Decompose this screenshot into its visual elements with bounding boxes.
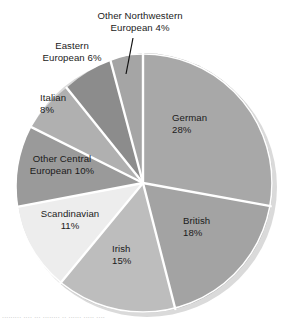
pie-label-other-central-european-value: European 10% [10, 165, 114, 177]
pie-label-eastern-european-value: European 6% [22, 52, 122, 64]
pie-label-other-central-european: Other Central European 10% [10, 153, 114, 176]
chart-plot-area: German 28% British 18% Irish 15% Scandin… [0, 0, 286, 321]
pie-label-irish: Irish 15% [112, 243, 162, 266]
cropped-caption-text: ......... .... ... ........ .. ...... ..… [2, 314, 105, 319]
pie-label-german-value: 28% [172, 124, 242, 136]
pie-label-other-northwestern-european-name: Other Northwestern [78, 10, 202, 22]
pie-label-italian-name: Italian [40, 92, 98, 104]
pie-label-irish-name: Irish [112, 243, 162, 255]
pie-label-scandinavian-value: 11% [24, 220, 116, 232]
pie-label-eastern-european-name: Eastern [22, 40, 122, 52]
pie-label-italian: Italian 8% [40, 92, 98, 115]
pie-label-other-northwestern-european-value: European 4% [78, 22, 202, 34]
pie-label-other-northwestern-european: Other Northwestern European 4% [78, 10, 202, 33]
pie-label-british-name: British [183, 215, 243, 227]
pie-label-british: British 18% [183, 215, 243, 238]
cropped-caption-strip: ......... .... ... ........ .. ...... ..… [0, 314, 286, 321]
pie-chart-figure: German 28% British 18% Irish 15% Scandin… [0, 0, 286, 321]
pie-label-eastern-european: Eastern European 6% [22, 40, 122, 63]
pie-label-british-value: 18% [183, 227, 243, 239]
pie-label-italian-value: 8% [40, 104, 98, 116]
pie-label-german-name: German [172, 112, 242, 124]
pie-label-german: German 28% [172, 112, 242, 135]
pie-label-scandinavian: Scandinavian 11% [24, 208, 116, 231]
pie-label-scandinavian-name: Scandinavian [24, 208, 116, 220]
pie-label-other-central-european-name: Other Central [10, 153, 114, 165]
pie-label-irish-value: 15% [112, 255, 162, 267]
